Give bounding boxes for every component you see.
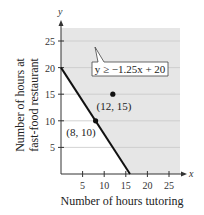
x-axis-variable: x	[188, 168, 194, 179]
svg-text:15: 15	[121, 180, 131, 191]
svg-text:15: 15	[45, 89, 55, 100]
y-axis-variable: y	[57, 6, 63, 17]
svg-text:10: 10	[99, 180, 109, 191]
x-axis-arrow-icon	[181, 172, 187, 177]
y-tick-labels: 5 10 15 20 25	[45, 36, 55, 153]
svg-text:20: 20	[45, 63, 55, 74]
inequality-graph: 5 10 15 20 25 5 10 15 20 25 y x (8, 10) …	[0, 0, 204, 215]
svg-text:20: 20	[142, 180, 152, 191]
inequality-label: y ≥ −1.25x + 20	[95, 63, 166, 75]
svg-text:5: 5	[80, 180, 85, 191]
point-8-10	[93, 118, 98, 123]
x-axis-title: Number of hours tutoring	[61, 194, 184, 208]
x-tick-labels: 5 10 15 20 25	[80, 180, 174, 191]
svg-text:5: 5	[50, 142, 55, 153]
svg-text:25: 25	[164, 180, 174, 191]
point-label-12-15: (12, 15)	[97, 100, 132, 113]
y-axis-arrow-icon	[59, 20, 64, 26]
point-12-15	[110, 92, 115, 97]
y-axis-title: Number of hours at fast-food restaurant	[13, 58, 41, 152]
svg-text:Number of hours at: Number of hours at	[13, 58, 27, 152]
svg-text:10: 10	[45, 116, 55, 127]
svg-text:25: 25	[45, 36, 55, 47]
svg-text:fast-food restaurant: fast-food restaurant	[27, 58, 41, 152]
point-label-8-10: (8, 10)	[66, 126, 96, 139]
